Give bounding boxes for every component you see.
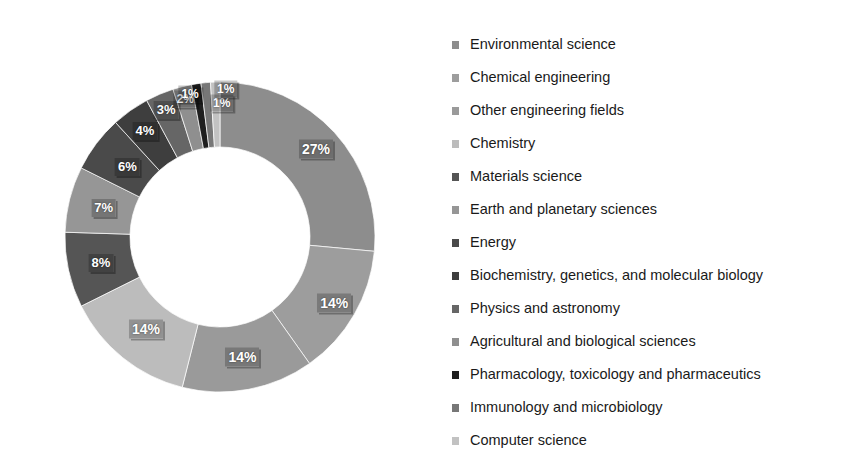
legend-item[interactable]: Environmental science bbox=[452, 28, 852, 61]
legend-item[interactable]: Earth and planetary sciences bbox=[452, 193, 852, 226]
legend-item-label: Biochemistry, genetics, and molecular bi… bbox=[470, 268, 763, 283]
legend-swatch-icon bbox=[452, 404, 459, 412]
slice-value-label: 6% bbox=[115, 158, 140, 176]
donut-svg bbox=[0, 0, 440, 472]
slice-value-label: 14% bbox=[129, 319, 163, 338]
legend-swatch-icon bbox=[452, 338, 459, 346]
legend-swatch-icon bbox=[452, 239, 459, 247]
slice-value-label: 7% bbox=[91, 199, 116, 217]
legend-item[interactable]: Materials science bbox=[452, 160, 852, 193]
legend-swatch-icon bbox=[452, 206, 459, 214]
legend-item-label: Chemical engineering bbox=[470, 70, 610, 85]
legend-item-label: Earth and planetary sciences bbox=[470, 202, 657, 217]
chart-plot-area: 27%14%14%14%8%7%6%4%3%2%1%1%1% bbox=[0, 0, 440, 472]
legend-swatch-icon bbox=[452, 74, 459, 82]
slice-value-label: 14% bbox=[225, 347, 259, 366]
legend-item-label: Environmental science bbox=[470, 37, 616, 52]
slice-value-label: 8% bbox=[88, 254, 113, 272]
donut-slice[interactable] bbox=[220, 82, 375, 251]
legend-item[interactable]: Immunology and microbiology bbox=[452, 391, 852, 424]
legend-swatch-icon bbox=[452, 305, 459, 313]
legend-swatch-icon bbox=[452, 437, 459, 445]
legend-swatch-icon bbox=[452, 173, 459, 181]
legend-item[interactable]: Chemistry bbox=[452, 127, 852, 160]
legend-swatch-icon bbox=[452, 107, 459, 115]
legend-item-label: Energy bbox=[470, 235, 516, 250]
legend-swatch-icon bbox=[452, 41, 459, 49]
legend-item[interactable]: Agricultural and biological sciences bbox=[452, 325, 852, 358]
slice-value-label: 1% bbox=[214, 81, 237, 98]
legend-item[interactable]: Computer science bbox=[452, 424, 852, 457]
donut-chart-figure: 27%14%14%14%8%7%6%4%3%2%1%1%1% Environme… bbox=[0, 0, 857, 472]
slice-value-label: 4% bbox=[132, 122, 157, 140]
slice-value-label: 1% bbox=[178, 86, 201, 103]
legend-item-label: Agricultural and biological sciences bbox=[470, 334, 696, 349]
legend-item[interactable]: Physics and astronomy bbox=[452, 292, 852, 325]
legend-item-label: Immunology and microbiology bbox=[470, 400, 663, 415]
legend-swatch-icon bbox=[452, 371, 459, 379]
legend-swatch-icon bbox=[452, 140, 459, 148]
chart-legend: Environmental scienceChemical engineerin… bbox=[452, 28, 852, 457]
legend-item-label: Physics and astronomy bbox=[470, 301, 620, 316]
legend-swatch-icon bbox=[452, 272, 459, 280]
legend-item[interactable]: Energy bbox=[452, 226, 852, 259]
legend-item-label: Chemistry bbox=[470, 136, 535, 151]
slice-value-label: 27% bbox=[299, 140, 333, 159]
legend-item[interactable]: Pharmacology, toxicology and pharmaceuti… bbox=[452, 358, 852, 391]
legend-item-label: Pharmacology, toxicology and pharmaceuti… bbox=[470, 367, 761, 382]
legend-item-label: Materials science bbox=[470, 169, 582, 184]
legend-item-label: Computer science bbox=[470, 433, 587, 448]
legend-item[interactable]: Chemical engineering bbox=[452, 61, 852, 94]
slice-value-label: 14% bbox=[317, 294, 351, 313]
legend-item-label: Other engineering fields bbox=[470, 103, 624, 118]
legend-item[interactable]: Biochemistry, genetics, and molecular bi… bbox=[452, 259, 852, 292]
legend-item[interactable]: Other engineering fields bbox=[452, 94, 852, 127]
